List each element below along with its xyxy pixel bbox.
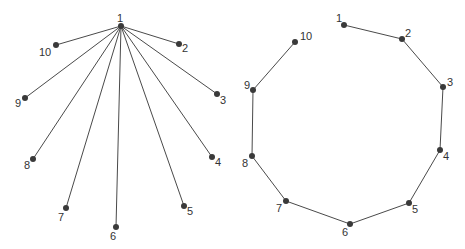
node-label: 6 [110, 230, 116, 242]
node-label: 2 [182, 42, 188, 54]
edge-1-10 [56, 26, 121, 45]
node-label: 10 [39, 46, 51, 58]
path-graph: 12345678910 [242, 12, 453, 238]
node-label: 6 [342, 226, 348, 238]
edge-1-9 [25, 26, 121, 98]
edge-4-5 [409, 150, 440, 203]
node-label: 3 [220, 94, 226, 106]
graph-diagrams: 1234567891012345678910 [0, 0, 465, 249]
node-9 [250, 87, 256, 93]
edge-1-3 [121, 26, 217, 94]
node-label: 10 [300, 30, 312, 42]
node-8 [249, 153, 255, 159]
edge-1-2 [344, 25, 402, 39]
edge-8-9 [252, 90, 253, 156]
node-3 [440, 84, 446, 90]
node-label: 8 [24, 159, 30, 171]
edge-1-7 [66, 26, 121, 208]
graph-diagram-canvas: 1234567891012345678910 [0, 0, 465, 249]
node-label: 8 [242, 157, 248, 169]
edge-1-4 [121, 26, 212, 157]
node-label: 1 [336, 12, 342, 24]
node-label: 5 [187, 205, 193, 217]
star-graph: 12345678910 [15, 12, 226, 242]
node-10 [292, 39, 298, 45]
edge-1-5 [121, 26, 184, 206]
node-7 [283, 198, 289, 204]
node-label: 1 [117, 12, 123, 24]
node-9 [22, 95, 28, 101]
edge-1-6 [116, 26, 121, 227]
node-label: 7 [276, 202, 282, 214]
edge-9-10 [253, 42, 295, 90]
node-label: 4 [215, 156, 221, 168]
node-10 [53, 42, 59, 48]
node-label: 5 [412, 203, 418, 215]
edge-7-8 [252, 156, 286, 201]
edge-6-7 [286, 201, 350, 224]
node-label: 9 [15, 97, 21, 109]
node-label: 7 [58, 211, 64, 223]
node-8 [30, 156, 36, 162]
node-label: 4 [443, 150, 449, 162]
edge-3-4 [440, 87, 443, 150]
node-label: 2 [405, 27, 411, 39]
edge-2-3 [402, 39, 443, 87]
edge-1-2 [121, 26, 179, 44]
edge-5-6 [350, 203, 409, 224]
node-label: 9 [244, 79, 250, 91]
node-label: 3 [447, 76, 453, 88]
